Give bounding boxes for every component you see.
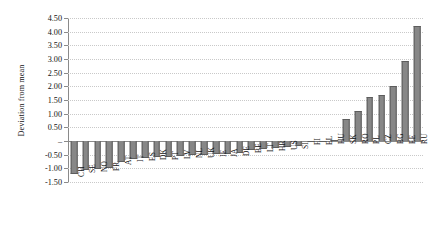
- bar-slot[interactable]: [340, 18, 352, 182]
- bar-slot[interactable]: [92, 18, 104, 182]
- bar-chart: Deviation from mean 4.504.003.503.002.50…: [0, 0, 433, 231]
- bar-series: [68, 18, 423, 182]
- x-tick-label: LV: [183, 149, 192, 159]
- bar-slot[interactable]: [411, 18, 423, 182]
- bar-slot[interactable]: [222, 18, 234, 182]
- bar-slot[interactable]: [364, 18, 376, 182]
- bar-slot[interactable]: [257, 18, 269, 182]
- bar-slot[interactable]: [388, 18, 400, 182]
- bar-slot[interactable]: [376, 18, 388, 182]
- x-tick-label: ES: [148, 152, 157, 161]
- y-tick-label: -0.50: [45, 150, 62, 159]
- bar-slot[interactable]: [281, 18, 293, 182]
- y-tick-label: 4.00: [48, 27, 62, 36]
- x-tick-label: SK: [349, 134, 358, 144]
- x-tick-label: LT: [266, 143, 275, 152]
- y-tick-label: 0.50: [48, 123, 62, 132]
- x-tick-label: AT: [124, 155, 133, 164]
- y-tick-label: –: [58, 137, 62, 146]
- y-tick-label: 4.50: [48, 14, 62, 23]
- x-tick-label: EE: [408, 135, 417, 144]
- bar-slot[interactable]: [352, 18, 364, 182]
- y-tick-label: 3.00: [48, 55, 62, 64]
- y-tick-label: -1.00: [45, 164, 62, 173]
- bar-slot[interactable]: [317, 18, 329, 182]
- x-tick-label: IE: [219, 150, 228, 157]
- y-tick-label: 3.50: [48, 41, 62, 50]
- bar[interactable]: [402, 61, 409, 141]
- y-tick: [64, 182, 68, 183]
- x-tick-label: SI: [301, 142, 310, 149]
- x-tick-label: UK: [207, 147, 216, 158]
- gridline: [68, 182, 423, 183]
- x-tick-label: NL: [195, 148, 204, 158]
- y-axis-title: Deviation from mean: [17, 36, 26, 166]
- y-tick-label: 2.00: [48, 82, 62, 91]
- y-tick-label: 1.50: [48, 96, 62, 105]
- bar-slot[interactable]: [293, 18, 305, 182]
- bar-slot[interactable]: [328, 18, 340, 182]
- bar-slot[interactable]: [399, 18, 411, 182]
- x-tick-label: DK: [159, 149, 168, 160]
- x-tick-label: NO: [100, 161, 109, 172]
- x-tick-label: HU: [337, 133, 346, 144]
- bar-slot[interactable]: [80, 18, 92, 182]
- x-tick-label: CZ: [384, 134, 393, 144]
- bar-slot[interactable]: [305, 18, 317, 182]
- x-tick-label: JA: [230, 148, 239, 157]
- bar[interactable]: [414, 26, 421, 141]
- x-tick-label: FR: [112, 162, 121, 171]
- x-tick-label: SE: [88, 164, 97, 173]
- x-tick-label: HR: [278, 140, 287, 151]
- x-tick-label: EL: [325, 136, 334, 145]
- y-tick-label: 1.00: [48, 109, 62, 118]
- bar-slot[interactable]: [234, 18, 246, 182]
- x-tick-label: FI: [313, 138, 322, 145]
- x-tick-label: BG: [396, 133, 405, 144]
- bar-slot[interactable]: [246, 18, 258, 182]
- x-tick-label: DE: [242, 146, 251, 156]
- x-tick-label: IT: [136, 155, 145, 162]
- bar-slot[interactable]: [104, 18, 116, 182]
- x-tick-label: BE: [254, 143, 263, 153]
- x-tick-label: PT: [171, 151, 180, 160]
- x-tick-label: RU: [420, 133, 429, 144]
- bar-slot[interactable]: [68, 18, 80, 182]
- x-tick-label: RO: [361, 133, 370, 144]
- plot-area: 4.504.003.503.002.502.001.501.000.50–-0.…: [68, 18, 423, 182]
- y-tick-label: -1.50: [45, 178, 62, 187]
- bar-slot[interactable]: [269, 18, 281, 182]
- x-tick-label: US: [290, 140, 299, 150]
- x-tick-label: CH: [77, 167, 86, 178]
- y-tick-label: 2.50: [48, 68, 62, 77]
- x-tick-label: PL: [372, 135, 381, 144]
